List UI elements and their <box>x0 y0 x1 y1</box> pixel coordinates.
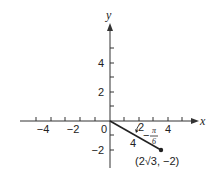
y-axis-arrow-icon <box>107 23 113 31</box>
x-tick-label-4: 4 <box>165 123 171 135</box>
angle-denominator: 6 <box>152 137 156 146</box>
angle-numerator: π <box>152 126 157 135</box>
x-axis-arrow-icon <box>191 118 199 124</box>
x-tick-label-neg4: −4 <box>37 123 50 135</box>
angle-sign: − <box>143 129 149 141</box>
y-ticks <box>110 48 114 150</box>
y-axis-label: y <box>105 8 112 22</box>
y-tick-label-neg2: −2 <box>91 144 104 156</box>
origin-label: 0 <box>101 123 107 135</box>
endpoint-dot <box>159 148 163 152</box>
endpoint-label: (2√3, −2) <box>135 155 179 167</box>
coordinate-plane: y x −4 −2 0 2 4 4 2 −2 4 − π 6 (2√3, −2) <box>0 0 217 177</box>
y-tick-label-4: 4 <box>98 57 104 69</box>
y-tick-label-2: 2 <box>98 86 104 98</box>
x-axis-label: x <box>199 114 206 128</box>
x-ticks <box>36 117 182 121</box>
segment-length-label: 4 <box>130 137 136 149</box>
x-tick-label-neg2: −2 <box>67 123 80 135</box>
